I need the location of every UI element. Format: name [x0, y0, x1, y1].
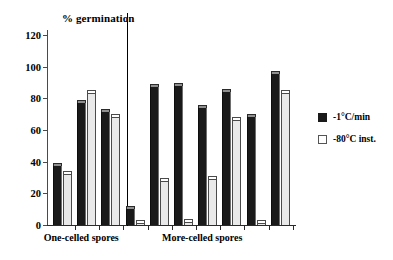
y-axis-tick-label: 0	[36, 220, 41, 231]
x-axis-tick	[220, 225, 221, 230]
y-axis-tick	[43, 67, 47, 68]
bar-body	[111, 117, 120, 225]
bar-body	[126, 209, 135, 225]
x-axis-tick	[148, 225, 149, 230]
bar-body	[247, 117, 256, 225]
plot-area: 020406080100120	[47, 30, 296, 226]
bar-body	[77, 103, 86, 225]
bar-dark-10	[271, 71, 280, 225]
y-axis-tick-label: 40	[31, 156, 42, 167]
bar-body	[87, 93, 96, 225]
bar-light-1	[63, 171, 72, 225]
legend-label: -1°C/min	[333, 113, 370, 123]
bar-light-3	[111, 114, 120, 225]
bar-light-5	[160, 178, 169, 226]
bar-body	[174, 86, 183, 226]
group-divider-line	[127, 13, 128, 226]
y-axis-tick	[43, 193, 47, 194]
bar-body	[136, 223, 145, 225]
legend-swatch-light	[318, 135, 327, 144]
bar-body	[222, 92, 231, 225]
bar-body	[63, 174, 72, 225]
bar-dark-4	[126, 206, 135, 225]
y-axis-tick-label: 100	[25, 61, 41, 72]
x-axis-tick	[123, 225, 124, 230]
bar-light-9	[257, 220, 266, 225]
bar-light-2	[87, 90, 96, 225]
x-axis-tick	[269, 225, 270, 230]
chart-title: % germination	[62, 12, 135, 24]
bar-body	[184, 222, 193, 225]
y-axis-tick	[43, 98, 47, 99]
bar-dark-8	[222, 89, 231, 225]
bar-body	[198, 108, 207, 225]
x-axis-tick	[293, 225, 294, 230]
bar-body	[53, 166, 62, 225]
y-axis-tick	[43, 35, 47, 36]
x-axis-tick	[196, 225, 197, 230]
x-axis-tick	[244, 225, 245, 230]
y-axis-tick-label: 120	[25, 30, 41, 41]
y-axis-line	[47, 30, 48, 226]
bar-dark-7	[198, 105, 207, 225]
y-axis-tick	[43, 225, 47, 226]
bar-body	[160, 181, 169, 226]
bar-light-4	[136, 220, 145, 225]
bar-dark-2	[77, 100, 86, 225]
bar-light-10	[281, 90, 290, 225]
bar-light-8	[232, 117, 241, 225]
legend-item-2: -80°C inst.	[318, 135, 376, 145]
germination-bar-chart: % germination 020406080100120 One-celled…	[0, 0, 393, 260]
legend-item-1: -1°C/min	[318, 113, 376, 123]
y-axis-tick-label: 20	[31, 188, 42, 199]
legend-label: -80°C inst.	[333, 135, 376, 145]
bar-dark-9	[247, 114, 256, 225]
bar-body	[232, 120, 241, 225]
legend-swatch-dark	[318, 113, 327, 122]
category-label-2: More-celled spores	[162, 232, 242, 243]
bar-light-7	[208, 176, 217, 225]
bar-body	[150, 87, 159, 225]
x-axis-tick	[75, 225, 76, 230]
y-axis-tick	[43, 130, 47, 131]
bar-body	[101, 112, 110, 225]
bar-dark-1	[53, 163, 62, 225]
bar-dark-3	[101, 109, 110, 225]
category-label-1: One-celled spores	[44, 232, 119, 243]
x-axis-tick	[172, 225, 173, 230]
x-axis-tick	[99, 225, 100, 230]
y-axis-tick	[43, 162, 47, 163]
bar-light-6	[184, 219, 193, 225]
bar-body	[281, 93, 290, 225]
bar-body	[271, 74, 280, 225]
y-axis-tick-label: 80	[31, 93, 42, 104]
bar-body	[208, 179, 217, 225]
bar-body	[257, 223, 266, 225]
chart-legend: -1°C/min-80°C inst.	[318, 113, 376, 156]
bar-dark-5	[150, 84, 159, 225]
bar-dark-6	[174, 83, 183, 226]
y-axis-tick-label: 60	[31, 125, 42, 136]
